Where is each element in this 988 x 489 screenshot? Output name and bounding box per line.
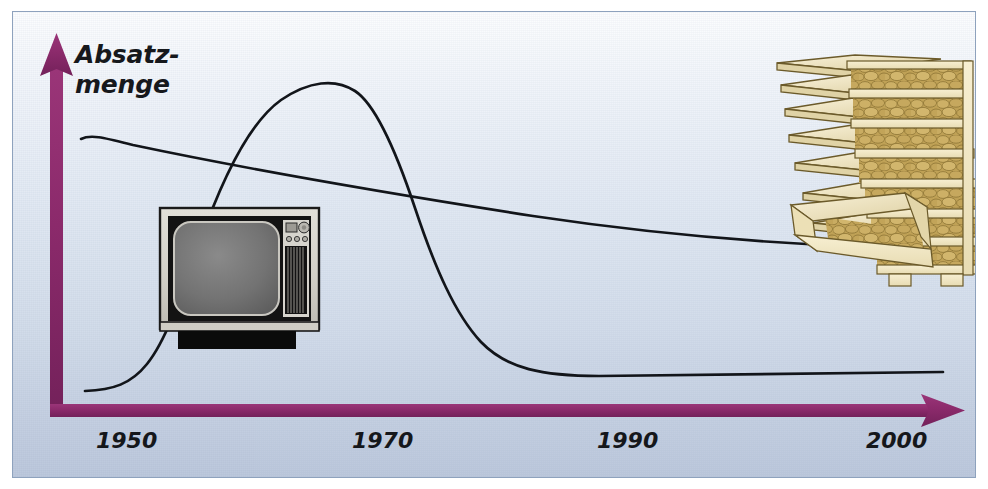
figure-canvas: Absatz- menge 1950 1970 1990 2000	[0, 0, 988, 489]
x-tick-label-1990: 1990	[597, 428, 658, 453]
x-tick-label-1970: 1970	[352, 428, 413, 453]
crt-television-illustration	[157, 204, 327, 352]
illustration-plate: Absatz- menge 1950 1970 1990 2000	[12, 11, 976, 478]
stacked-potato-crates-illustration	[755, 45, 976, 287]
chart-stage: Absatz- menge 1950 1970 1990 2000	[13, 12, 975, 477]
pallet-feet	[889, 274, 963, 286]
television-svg	[157, 204, 327, 352]
potato-crates-svg	[755, 45, 976, 287]
pulled-out-crate	[791, 193, 933, 267]
x-tick-label-1950: 1950	[96, 428, 157, 453]
x-tick-label-2000: 2000	[866, 428, 927, 453]
y-axis-label: Absatz- menge	[75, 40, 179, 100]
